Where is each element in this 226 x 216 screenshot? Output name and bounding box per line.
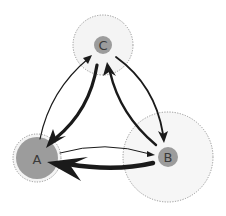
node-label-b: B xyxy=(164,150,173,165)
edge-a-to-c xyxy=(40,58,89,139)
graph-diagram: C B A xyxy=(0,0,226,216)
edge-b-to-a xyxy=(68,163,153,168)
edge-c-to-a xyxy=(56,65,97,138)
node-label-a: A xyxy=(33,152,42,167)
node-label-c: C xyxy=(98,38,107,53)
